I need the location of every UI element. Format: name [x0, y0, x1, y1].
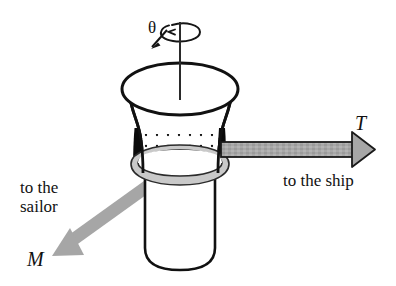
capstan-diagram-figure: T M θ to the ship to the sailor [0, 0, 396, 286]
theta-symbol-label: θ [148, 18, 156, 37]
to-the-sailor-caption: to the sailor [20, 178, 58, 216]
capstan-base-cylinder [145, 171, 215, 270]
moment-symbol-label: M [27, 248, 44, 270]
capstan-diagram-canvas [0, 0, 396, 286]
to-the-ship-caption: to the ship [283, 171, 354, 190]
tension-symbol-label: T [355, 112, 366, 134]
rope-coil-band [131, 145, 229, 185]
tension-arrow [221, 132, 375, 167]
